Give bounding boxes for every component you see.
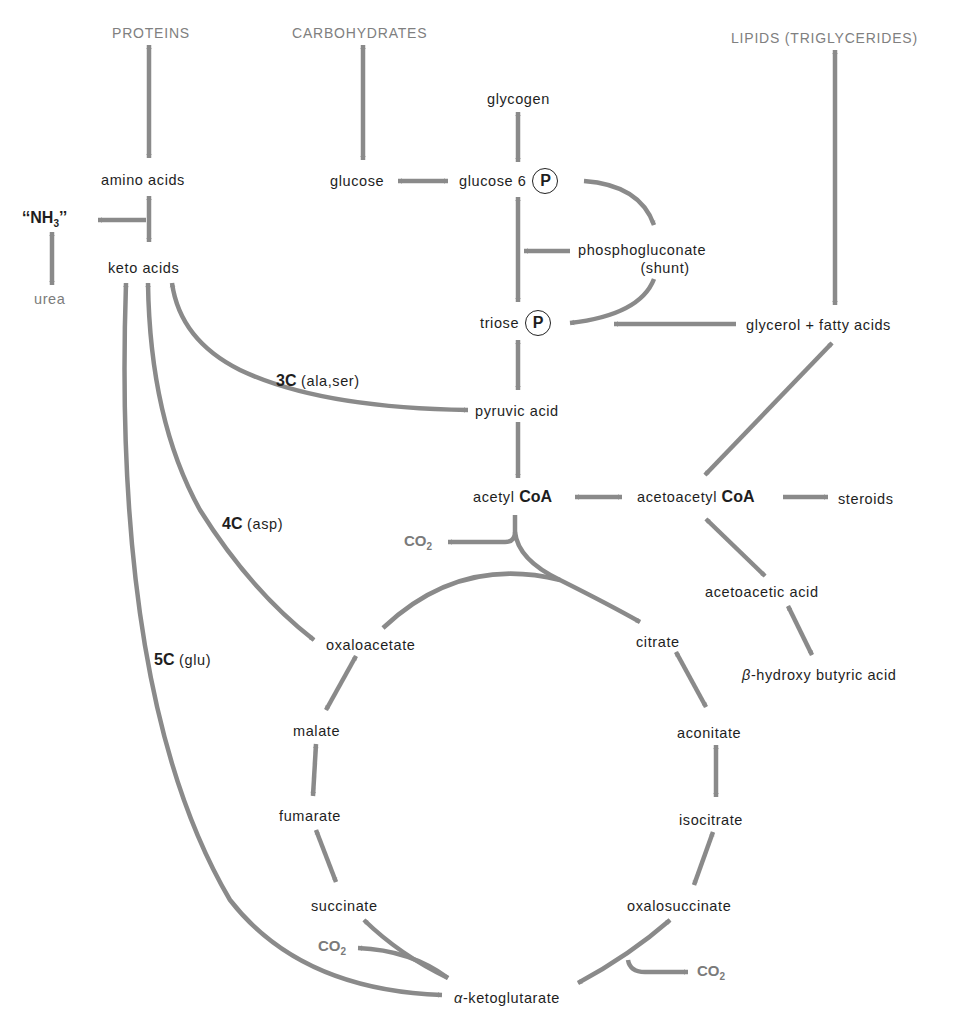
node-glycogen: glycogen: [487, 92, 550, 107]
arrow-acetoacetic-betahydroxy: [788, 606, 812, 655]
node-oxalosuccinate: oxalosuccinate: [627, 899, 731, 914]
label-3c: 3C: [276, 372, 296, 389]
node-triose-phosphate: trioseP: [480, 310, 551, 336]
phosphogluconate-label: phosphogluconate: [578, 241, 706, 259]
phosphate-circle-icon: P: [525, 310, 551, 336]
arrow-keto-pyruvic-3c: [172, 283, 468, 410]
node-acetyl-coa: acetyl CoA: [473, 489, 552, 505]
node-succinate: succinate: [311, 899, 378, 914]
acetoacetyl-label: acetoacetyl: [637, 489, 717, 505]
arrow-layer: [0, 0, 956, 1036]
coa-label: CoA: [519, 488, 552, 505]
node-acetoacetyl-coa: acetoacetyl CoA: [637, 489, 754, 505]
node-phosphogluconate: phosphogluconate(shunt): [578, 241, 706, 277]
node-amino-acids: amino acids: [101, 173, 185, 188]
label-5c-detail: (glu): [179, 652, 211, 668]
coa-label: CoA: [722, 488, 755, 505]
co2-subscript: 2: [720, 971, 726, 982]
arrow-oxalosuccinate-co2: [628, 960, 688, 972]
heading-lipids: LIPIDS (TRIGLYCERIDES): [731, 31, 918, 45]
arrow-acetylcoa-co2: [448, 515, 515, 542]
arrow-oxaloacetate-citrate: [383, 574, 560, 628]
arrow-oxaloacetate-malate: [326, 656, 356, 710]
label-4c-detail: (asp): [247, 516, 283, 532]
node-fumarate: fumarate: [279, 809, 341, 824]
alpha-symbol: α: [454, 990, 463, 1006]
label-5c-glu: 5C (glu): [154, 652, 211, 668]
arrow-citrate-aconitate: [676, 652, 706, 707]
co2-subscript: 2: [341, 946, 347, 957]
co2-acetylcoa: CO2: [404, 533, 432, 552]
node-citrate: citrate: [636, 635, 680, 650]
co2-subscript: 2: [427, 541, 433, 552]
nh3-suffix: ’’: [59, 209, 67, 226]
node-steroids: steroids: [838, 492, 894, 507]
beta-hydroxy-label: -hydroxy butyric acid: [751, 667, 897, 683]
co2-text: CO: [318, 937, 341, 954]
node-glycerol-fatty-acids: glycerol + fatty acids: [746, 318, 891, 333]
node-keto-acids: keto acids: [108, 261, 179, 276]
co2-text: CO: [697, 962, 720, 979]
arrow-fatty-acetoacetyl: [705, 343, 832, 475]
co2-oxalosuccinate: CO2: [697, 963, 725, 982]
acetyl-label: acetyl: [473, 489, 514, 505]
heading-carbohydrates: CARBOHYDRATES: [292, 26, 427, 40]
co2-alphakg: CO2: [318, 938, 346, 957]
alpha-ketoglutarate-label: -ketoglutarate: [463, 990, 560, 1006]
arrow-g6p-phosphogluconate: [584, 181, 654, 225]
label-4c: 4C: [222, 515, 242, 532]
node-beta-hydroxy-butyric-acid: β-hydroxy butyric acid: [742, 668, 896, 683]
node-alpha-ketoglutarate: α-ketoglutarate: [454, 991, 560, 1006]
nh3-prefix: ‘‘NH: [22, 209, 53, 226]
node-oxaloacetate: oxaloacetate: [326, 638, 415, 653]
label-5c: 5C: [154, 651, 174, 668]
node-urea: urea: [34, 292, 65, 307]
arrow-isocitrate-oxalosuccinate: [694, 832, 713, 885]
triose-label: triose: [480, 315, 519, 331]
node-malate: malate: [293, 724, 340, 739]
arrow-acetoacetyl-acetoacetic: [706, 519, 765, 576]
glucose6-label: glucose 6: [459, 173, 526, 189]
node-aconitate: aconitate: [677, 726, 741, 741]
arrow-malate-fumarate: [313, 744, 316, 796]
label-3c-ala-ser: 3C (ala,ser): [276, 373, 360, 389]
node-pyruvic-acid: pyruvic acid: [475, 404, 559, 419]
node-isocitrate: isocitrate: [679, 813, 743, 828]
node-glucose-6-phosphate: glucose 6P: [459, 168, 558, 194]
heading-proteins: PROTEINS: [112, 26, 190, 40]
label-3c-detail: (ala,ser): [301, 373, 360, 389]
co2-text: CO: [404, 532, 427, 549]
node-glucose: glucose: [330, 174, 384, 189]
arrow-fumarate-succinate: [316, 830, 336, 882]
label-4c-asp: 4C (asp): [222, 516, 283, 532]
phosphate-circle-icon: P: [532, 168, 558, 194]
beta-symbol: β: [742, 667, 751, 683]
arrow-keto-oxaloacetate-4c: [148, 283, 314, 640]
arrow-shunt-triose: [570, 279, 654, 323]
shunt-label: (shunt): [578, 259, 706, 277]
node-nh3: ‘‘NH3’’: [22, 210, 67, 229]
node-acetoacetic-acid: acetoacetic acid: [705, 585, 819, 600]
